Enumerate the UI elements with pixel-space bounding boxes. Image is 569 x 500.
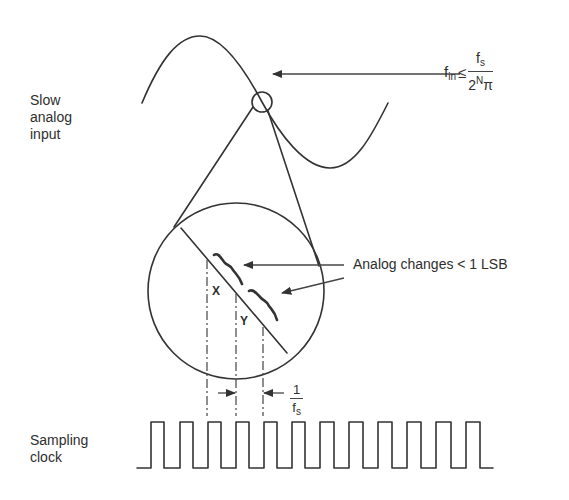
label-line: Slow [30,92,72,109]
formula-lhs: fin [444,63,456,82]
slow-analog-input-label: Slow analog input [30,92,72,143]
formula-relation: ≤ [458,64,466,81]
zoom-tangent-left [174,107,253,227]
label-line: Sampling [30,432,88,449]
nyquist-condition-formula: fin ≤ fs 2Nπ [444,47,493,97]
period-fraction: 1 fs [290,382,303,420]
analog-changes-label: Analog changes < 1 LSB [353,256,508,273]
label-line: clock [30,449,88,466]
label-line: input [30,126,72,143]
period-denominator: fs [290,399,303,420]
period-numerator: 1 [290,382,303,399]
label-line: analog [30,109,72,126]
analog-sine-wave [142,36,388,168]
formula-numerator: fs [468,51,493,72]
analog-change-arrow-2 [282,278,344,293]
formula-fraction: fs 2Nπ [468,51,493,93]
formula-denominator: 2Nπ [468,72,493,93]
sample-x-marker: X [212,283,220,300]
change-bracket-y [249,290,277,320]
sampling-clock-label: Sampling clock [30,432,88,466]
change-bracket-x [214,254,242,284]
sample-y-marker: Y [240,313,248,330]
zoom-tangent-right [268,111,319,266]
sampling-clock-wave [137,422,493,468]
magnified-signal-line [181,228,287,353]
